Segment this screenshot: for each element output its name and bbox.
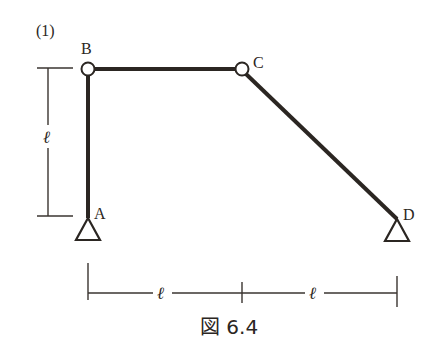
frame-diagram: (1) ℓ B C A D ℓ ℓ 図 6.4 bbox=[0, 0, 433, 364]
figure-caption: 図 6.4 bbox=[200, 315, 258, 339]
vertical-dimension: ℓ bbox=[37, 68, 73, 216]
horizontal-dimension-left-label: ℓ bbox=[157, 283, 164, 303]
horizontal-dimension: ℓ ℓ bbox=[88, 263, 397, 307]
node-label-c: C bbox=[253, 54, 264, 71]
node-label-d: D bbox=[403, 206, 415, 223]
problem-number: (1) bbox=[36, 22, 55, 40]
horizontal-dimension-right-label: ℓ bbox=[309, 283, 316, 303]
hinge-b-icon bbox=[82, 63, 95, 76]
node-label-a: A bbox=[94, 205, 106, 222]
hinge-c-icon bbox=[236, 63, 249, 76]
node-label-b: B bbox=[81, 40, 92, 57]
member-cd bbox=[246, 74, 397, 219]
frame-members bbox=[88, 69, 397, 219]
vertical-dimension-label: ℓ bbox=[43, 127, 50, 147]
